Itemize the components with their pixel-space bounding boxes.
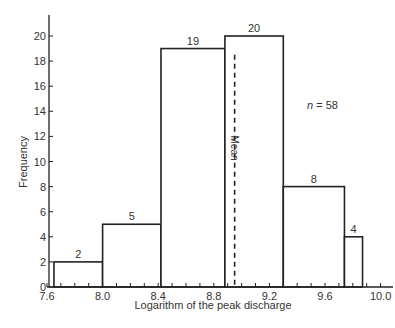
x-tick-label: 9.6 (317, 290, 332, 302)
y-tick-label: 2 (40, 256, 46, 268)
x-axis-title: Logarithm of the peak discharge (134, 299, 291, 311)
y-tick-label: 14 (34, 105, 46, 117)
histogram-bars: 25192084 (54, 22, 363, 287)
y-tick-label: 20 (34, 30, 46, 42)
histogram-bar (344, 237, 362, 287)
bar-count-label: 19 (187, 35, 199, 47)
bar-count-label: 8 (311, 173, 317, 185)
y-tick-label: 12 (34, 130, 46, 142)
bar-count-label: 20 (248, 22, 260, 34)
histogram-bar (103, 224, 161, 287)
sample-size-annotation: n = 58 (307, 99, 338, 111)
bar-count-label: 4 (350, 223, 356, 235)
bar-count-label: 2 (75, 248, 81, 260)
n-value: = 58 (313, 99, 338, 111)
mean-label: Mean (229, 135, 240, 160)
x-tick-label: 8.0 (95, 290, 110, 302)
y-tick-label: 6 (40, 206, 46, 218)
histogram-bar (161, 49, 225, 287)
y-axis-title: Frequency (17, 136, 29, 188)
histogram-bar (283, 187, 344, 287)
y-tick-label: 16 (34, 80, 46, 92)
y-tick-label: 8 (40, 181, 46, 193)
y-tick-label: 10 (34, 156, 46, 168)
y-tick-label: 18 (34, 55, 46, 67)
histogram-chart: 25192084 024681012141618207.68.08.48.89.… (0, 0, 395, 328)
histogram-bar (225, 36, 283, 287)
x-tick-label: 7.6 (39, 290, 54, 302)
y-tick-label: 4 (40, 231, 46, 243)
bar-count-label: 5 (129, 210, 135, 222)
x-tick-label: 10.0 (370, 290, 391, 302)
